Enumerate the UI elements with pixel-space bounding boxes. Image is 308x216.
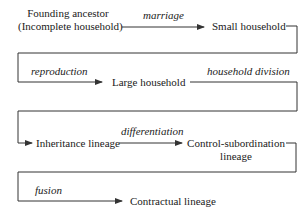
node-control-subordination-lineage: Control-subordination lineage	[186, 137, 286, 163]
control-line2: lineage	[186, 150, 286, 163]
edge-label-household-division: household division	[207, 65, 290, 78]
founding-line2: (Incomplete household)	[18, 20, 118, 33]
node-contractual-lineage: Contractual lineage	[130, 195, 216, 208]
node-inheritance-lineage: Inheritance lineage	[36, 137, 120, 150]
node-large-household: Large household	[112, 76, 185, 89]
edge-label-differentiation: differentiation	[121, 125, 184, 138]
edge-label-fusion: fusion	[35, 184, 62, 197]
control-line1: Control-subordination	[186, 137, 286, 150]
founding-line1: Founding ancestor	[18, 7, 118, 20]
edge-label-marriage: marriage	[143, 9, 184, 22]
node-small-household: Small household	[212, 20, 286, 33]
node-founding-ancestor: Founding ancestor (Incomplete household)	[18, 7, 118, 33]
edge-label-reproduction: reproduction	[31, 65, 88, 78]
